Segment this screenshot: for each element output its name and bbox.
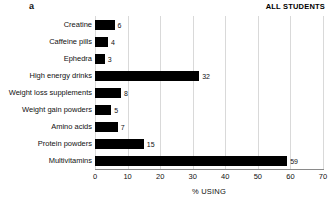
bar-chart-figure: a ALL STUDENTS CreatineCaffeine pillsEph… (0, 0, 336, 207)
bar-row: 15 (95, 135, 323, 152)
bar-value-label: 59 (290, 156, 298, 167)
x-tick-label: 20 (156, 171, 164, 182)
x-tick-label: 50 (254, 171, 262, 182)
bar-row: 4 (95, 33, 323, 50)
bar-rows: 643328571559 (95, 16, 323, 169)
bar-value-label: 7 (121, 122, 125, 133)
chart-title: ALL STUDENTS (266, 1, 325, 12)
bar (95, 156, 287, 166)
category-label: Multivitamins (0, 155, 92, 166)
category-label: Caffeine pills (0, 36, 92, 47)
bar (95, 54, 105, 64)
bar (95, 105, 111, 115)
bar-row: 59 (95, 152, 323, 169)
x-tick-label: 40 (221, 171, 229, 182)
bar-value-label: 32 (202, 71, 210, 82)
bar-value-label: 15 (147, 139, 155, 150)
x-axis-tick-labels: 010203040506070 (95, 171, 323, 183)
bar-value-label: 6 (118, 20, 122, 31)
category-label: Weight loss supplements (0, 87, 92, 98)
bar-value-label: 4 (111, 37, 115, 48)
bar-row: 7 (95, 118, 323, 135)
bar-row: 3 (95, 50, 323, 67)
bar (95, 37, 108, 47)
plot-area: 643328571559 (95, 16, 323, 169)
x-tick-label: 60 (286, 171, 294, 182)
x-axis-label: % USING (95, 186, 323, 197)
bar (95, 71, 199, 81)
x-tick-label: 10 (123, 171, 131, 182)
bar (95, 88, 121, 98)
category-label: Weight gain powders (0, 104, 92, 115)
category-label: High energy drinks (0, 70, 92, 81)
bar (95, 20, 115, 30)
category-axis-labels: CreatineCaffeine pillsEphedraHigh energy… (0, 16, 92, 169)
bar-row: 8 (95, 84, 323, 101)
bar-value-label: 5 (114, 105, 118, 116)
bar-row: 6 (95, 16, 323, 33)
x-tick-label: 30 (189, 171, 197, 182)
bar (95, 139, 144, 149)
x-tick-label: 0 (93, 171, 97, 182)
bar (95, 122, 118, 132)
x-tick-label: 70 (319, 171, 327, 182)
bar-value-label: 8 (124, 88, 128, 99)
category-label: Protein powders (0, 138, 92, 149)
bar-row: 32 (95, 67, 323, 84)
category-label: Creatine (0, 19, 92, 30)
category-label: Ephedra (0, 53, 92, 64)
bar-value-label: 3 (108, 54, 112, 65)
panel-letter: a (29, 1, 34, 12)
category-label: Amino acids (0, 121, 92, 132)
bar-row: 5 (95, 101, 323, 118)
x-axis-line (95, 169, 324, 170)
gridline-70 (323, 16, 324, 169)
